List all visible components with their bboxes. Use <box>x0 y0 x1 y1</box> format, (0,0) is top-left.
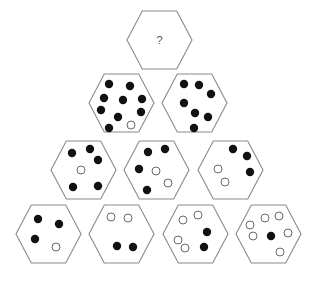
filled-dot <box>55 220 63 228</box>
open-dot <box>124 214 132 222</box>
filled-dot <box>144 148 152 156</box>
hexagon-row4-hex1 <box>16 205 81 263</box>
open-dot <box>77 166 85 174</box>
filled-dot <box>190 124 198 132</box>
open-dot <box>152 167 160 175</box>
filled-dot <box>94 156 102 164</box>
filled-dot <box>267 232 275 240</box>
filled-dot <box>86 145 94 153</box>
hexagon-outline <box>162 74 227 132</box>
filled-dot <box>126 82 134 90</box>
hexagon-row2-hex2 <box>162 74 227 132</box>
open-dot <box>127 121 135 129</box>
open-dot <box>174 236 182 244</box>
open-dot <box>275 212 283 220</box>
open-dot <box>194 211 202 219</box>
filled-dot <box>68 149 76 157</box>
open-dot <box>52 243 60 251</box>
open-dot <box>214 165 222 173</box>
filled-dot <box>69 183 77 191</box>
filled-dot <box>113 242 121 250</box>
hexagon-row2-hex1 <box>89 74 154 132</box>
filled-dot <box>137 108 145 116</box>
filled-dot <box>105 80 113 88</box>
hexagon-outline <box>16 205 81 263</box>
hexagon-row4-hex3 <box>163 205 228 263</box>
hexagon-outline <box>89 205 154 263</box>
filled-dot <box>161 145 169 153</box>
open-dot <box>284 229 292 237</box>
open-dot <box>246 221 254 229</box>
filled-dot <box>94 182 102 190</box>
hexagon-row3-hex2 <box>124 141 189 199</box>
question-mark: ? <box>156 34 162 46</box>
filled-dot <box>135 165 143 173</box>
hexagon-row3-hex1 <box>51 141 116 199</box>
hexagon-row3-hex3 <box>198 141 263 199</box>
filled-dot <box>191 109 199 117</box>
hexagon-row4-hex4 <box>236 205 301 263</box>
filled-dot <box>207 90 215 98</box>
open-dot <box>249 232 257 240</box>
filled-dot <box>243 152 251 160</box>
filled-dot <box>195 81 203 89</box>
filled-dot <box>180 99 188 107</box>
filled-dot <box>180 80 188 88</box>
filled-dot <box>105 124 113 132</box>
filled-dot <box>203 228 211 236</box>
hexagon-row4-hex2 <box>89 205 154 263</box>
filled-dot <box>34 215 42 223</box>
filled-dot <box>114 113 122 121</box>
filled-dot <box>246 168 254 176</box>
filled-dot <box>31 235 39 243</box>
hexagon-dot-puzzle: ? <box>0 0 316 281</box>
filled-dot <box>143 186 151 194</box>
filled-dot <box>229 145 237 153</box>
filled-dot <box>97 106 105 114</box>
filled-dot <box>204 113 212 121</box>
open-dot <box>181 244 189 252</box>
question-hexagon: ? <box>127 11 192 69</box>
filled-dot <box>200 243 208 251</box>
open-dot <box>164 179 172 187</box>
open-dot <box>221 178 229 186</box>
open-dot <box>276 248 284 256</box>
open-dot <box>261 214 269 222</box>
open-dot <box>107 213 115 221</box>
filled-dot <box>138 95 146 103</box>
filled-dot <box>100 94 108 102</box>
filled-dot <box>119 96 127 104</box>
filled-dot <box>129 243 137 251</box>
open-dot <box>179 216 187 224</box>
